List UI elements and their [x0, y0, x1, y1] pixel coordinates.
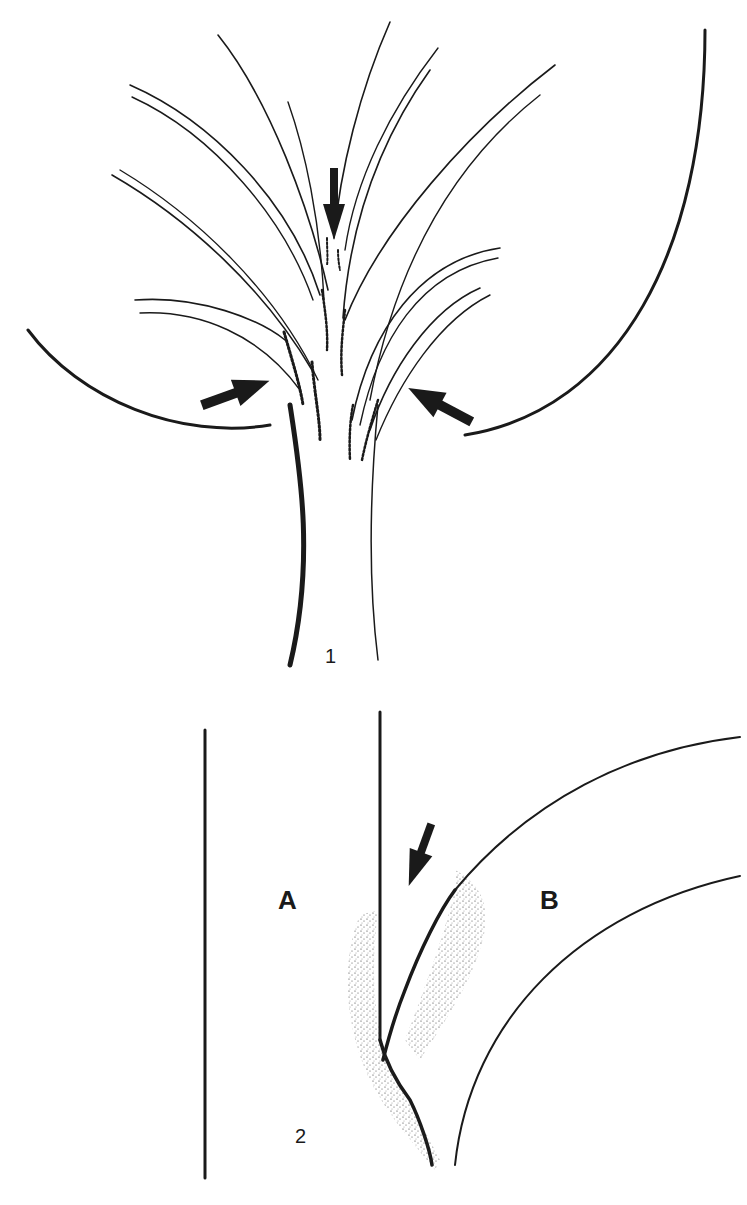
left-arrow-icon [197, 367, 274, 418]
region-a-label: A [278, 885, 297, 916]
diagonal-down-arrow-icon [397, 820, 442, 890]
panel-2-drawing [205, 712, 740, 1178]
region-b-outer-arc [455, 737, 740, 890]
panel-1-drawing [28, 22, 705, 665]
region-b-label: B [540, 885, 559, 916]
stipple-zone-right [405, 870, 486, 1060]
region-b-inner-arc [455, 876, 740, 1165]
panel-2-label: 2 [295, 1125, 306, 1148]
outer-left-curve [28, 330, 270, 428]
panel-1-label: 1 [325, 645, 336, 668]
right-arrow-icon [402, 376, 479, 435]
outer-right-curve [465, 30, 705, 435]
trunk-left-edge [290, 405, 304, 665]
panel-1-arrows [197, 168, 478, 434]
diagram-canvas [0, 0, 747, 1205]
trunk-right-edge [371, 405, 378, 660]
